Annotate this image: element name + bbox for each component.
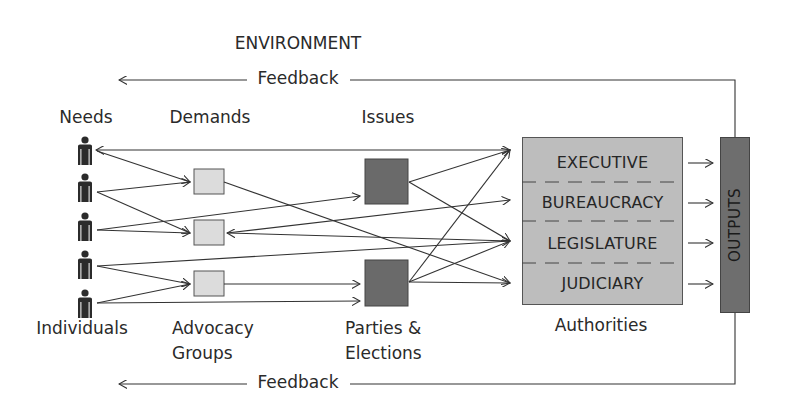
outputs-label: OUTPUTS <box>726 188 744 262</box>
person-icon <box>78 173 92 202</box>
parties-label-2: Elections <box>345 344 422 364</box>
authorities-label: Authorities <box>555 316 648 336</box>
authority-bureaucracy: BUREAUCRACY <box>523 193 682 212</box>
advocacy-groups-label-1: Advocacy <box>172 319 254 339</box>
authority-executive: EXECUTIVE <box>523 153 682 172</box>
party-box-1 <box>365 159 408 204</box>
person-icon <box>78 250 92 279</box>
environment-title: ENVIRONMENT <box>235 34 362 54</box>
flow-arrows <box>96 150 510 303</box>
parties-label-1: Parties & <box>345 319 421 339</box>
feedback-bottom-label: Feedback <box>254 373 343 393</box>
advocacy-group-boxes <box>194 169 224 296</box>
individuals-label: Individuals <box>36 319 128 339</box>
advocacy-box-3 <box>194 271 224 296</box>
person-icon <box>78 136 92 165</box>
advocacy-groups-label-2: Groups <box>172 344 233 364</box>
person-icon <box>78 289 92 318</box>
outputs-bar: OUTPUTS <box>720 137 750 313</box>
needs-label: Needs <box>59 108 112 128</box>
feedback-top-label: Feedback <box>254 69 343 89</box>
authority-judiciary: JUDICIARY <box>523 274 682 293</box>
authorities-box: EXECUTIVE BUREAUCRACY LEGISLATURE JUDICI… <box>522 137 683 305</box>
person-icon <box>78 212 92 241</box>
demands-label: Demands <box>170 108 251 128</box>
advocacy-box-1 <box>194 169 224 194</box>
advocacy-box-2 <box>194 220 224 245</box>
individuals-icons <box>78 136 92 318</box>
party-box-2 <box>365 260 408 306</box>
issues-label: Issues <box>362 108 415 128</box>
authority-legislature: LEGISLATURE <box>523 234 682 253</box>
party-boxes <box>365 159 408 306</box>
output-arrows <box>688 163 713 284</box>
